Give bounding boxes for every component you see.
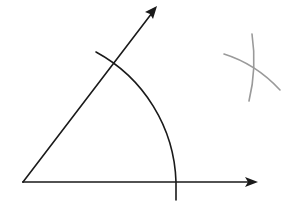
angle-construction-diagram	[0, 0, 306, 203]
compass-arc	[96, 52, 176, 200]
upper-arrowhead-icon	[145, 6, 157, 19]
upper-ray	[23, 13, 152, 182]
vertex-point	[22, 181, 24, 183]
